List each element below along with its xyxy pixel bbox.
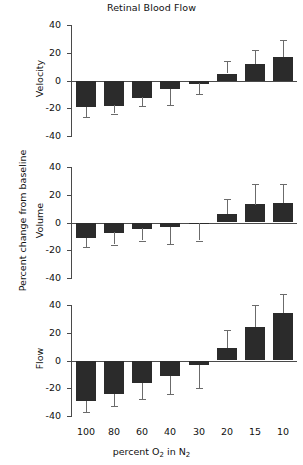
y-tick-flow-20	[67, 333, 71, 334]
x-tick-label-40: 40	[157, 426, 183, 437]
x-tick-label-20: 20	[214, 426, 240, 437]
errorbar-cap-flow-60	[139, 399, 146, 400]
x-tick-label-80: 80	[101, 426, 127, 437]
x-tick-label-30: 30	[186, 426, 212, 437]
x-axis-title-mid: in N	[164, 446, 186, 457]
bar-flow-60	[132, 361, 152, 383]
errorbar-cap-flow-80	[111, 406, 118, 407]
errorbar-cap-flow-40	[167, 394, 174, 395]
errorbar-flow-30	[199, 365, 200, 389]
errorbar-flow-15	[255, 305, 256, 327]
retinal-blood-flow-figure: Retinal Blood Flow Percent change from b…	[0, 0, 303, 465]
errorbar-cap-flow-15	[252, 305, 259, 306]
errorbar-flow-10	[283, 294, 284, 313]
y-tick-flow-0	[67, 361, 71, 362]
x-tick-label-15: 15	[242, 426, 268, 437]
errorbar-cap-flow-100	[83, 412, 90, 413]
y-tick-label-flow--40: -40	[39, 410, 61, 421]
errorbar-cap-flow-10	[280, 294, 287, 295]
panel-label-flow: Flow	[34, 324, 45, 394]
y-tick-flow--20	[67, 388, 71, 389]
x-axis-title-pre: percent O	[113, 446, 160, 457]
x-axis-title-sub-n2: 2	[186, 451, 190, 459]
errorbar-flow-80	[114, 394, 115, 406]
bar-flow-10	[273, 313, 293, 360]
y-tick-flow-40	[67, 305, 71, 306]
bar-flow-80	[104, 361, 124, 394]
y-tick-flow--40	[67, 416, 71, 417]
errorbar-cap-flow-20	[224, 330, 231, 331]
bar-flow-40	[160, 361, 180, 376]
errorbar-cap-flow-30	[196, 388, 203, 389]
bar-flow-20	[217, 348, 237, 360]
x-tick-label-60: 60	[129, 426, 155, 437]
errorbar-flow-20	[227, 330, 228, 348]
x-tick-label-100: 100	[73, 426, 99, 437]
bar-flow-15	[245, 327, 265, 360]
y-tick-label-flow-40: 40	[39, 299, 61, 310]
x-axis-title-sub-o2: 2	[160, 451, 164, 459]
errorbar-flow-60	[142, 383, 143, 400]
bar-flow-100	[76, 361, 96, 401]
panel-flow: 40200-20-40Flow	[0, 0, 303, 465]
errorbar-flow-100	[86, 401, 87, 412]
x-axis-title: percent O2 in N2	[0, 446, 303, 457]
x-tick-label-10: 10	[270, 426, 296, 437]
errorbar-flow-40	[170, 376, 171, 394]
